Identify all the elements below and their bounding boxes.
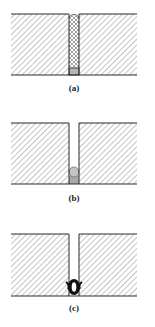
left-slab [11,14,69,75]
left-slab [11,234,69,296]
panel-c: (c) [11,234,137,313]
panel-label-b: (b) [69,193,80,203]
joint-diagram: (a) (b) (c) [0,0,155,327]
sealant-fill [69,16,79,68]
panel-a: (a) [11,14,137,93]
right-slab [79,234,137,296]
left-slab [11,123,69,184]
right-slab [79,14,137,75]
panel-label-c: (c) [69,303,79,313]
panel-b: (b) [11,123,137,203]
backer-block [69,68,79,75]
panel-label-a: (a) [69,83,80,93]
right-slab [79,123,137,184]
backer-rod [69,167,79,177]
